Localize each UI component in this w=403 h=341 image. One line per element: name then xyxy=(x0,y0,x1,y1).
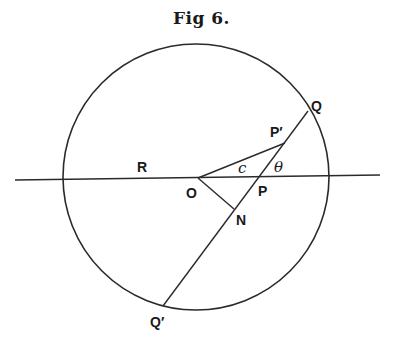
horizontal-line xyxy=(15,175,380,180)
geometry-diagram: R O P N P′ Q Q′ c θ xyxy=(0,0,403,341)
label-p-prime: P′ xyxy=(270,124,283,140)
label-o: O xyxy=(186,185,197,201)
label-angle-c: c xyxy=(238,159,247,177)
line-o-n xyxy=(198,178,234,209)
label-p: P xyxy=(258,183,267,199)
label-angle-theta: θ xyxy=(274,158,283,176)
label-n: N xyxy=(236,212,246,228)
label-r: R xyxy=(137,159,147,175)
label-q-prime: Q′ xyxy=(150,314,165,330)
label-q: Q xyxy=(311,98,322,114)
chord-q-q-prime xyxy=(163,111,308,306)
